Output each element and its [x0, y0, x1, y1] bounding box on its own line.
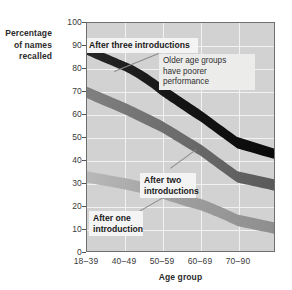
x-tick-70-90: 70–90 — [216, 256, 260, 266]
chart-container: Percentage of names recalled 100 90 80 7… — [0, 0, 292, 290]
annotation-after-two-introductions: After two introductions — [140, 173, 196, 198]
y-tickmark-0 — [82, 252, 86, 253]
y-tick-70: 70 — [54, 87, 82, 96]
y-tick-100: 100 — [54, 18, 82, 27]
y-tick-30: 30 — [54, 179, 82, 188]
y-tick-80: 80 — [54, 64, 82, 73]
y-axis-title: Percentage of names recalled — [2, 28, 52, 63]
x-axis-title: Age group — [86, 272, 275, 282]
y-tick-60: 60 — [54, 110, 82, 119]
annotation-after-one-introduction: After one introduction — [89, 211, 143, 236]
y-tick-90: 90 — [54, 41, 82, 50]
y-axis-tick-labels: 100 90 80 70 60 50 40 30 20 10 0 — [54, 0, 82, 290]
plot-area: After three introductions Older age grou… — [86, 22, 275, 252]
annotation-older-age-groups: Older age groups have poorer performance — [159, 54, 255, 90]
y-tick-20: 20 — [54, 202, 82, 211]
y-tick-50: 50 — [54, 133, 82, 142]
y-tick-10: 10 — [54, 225, 82, 234]
y-tick-40: 40 — [54, 156, 82, 165]
annotation-after-three-introductions: After three introductions — [86, 38, 198, 53]
